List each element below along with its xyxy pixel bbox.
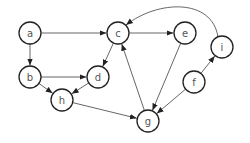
node-e-label: e [182, 28, 188, 39]
edge-f-to-g [157, 89, 186, 113]
node-a-label: a [27, 28, 33, 39]
node-f-label: f [192, 77, 196, 88]
edge-g-to-c [122, 44, 145, 111]
edge-d-to-h [72, 83, 89, 94]
edge-i-to-c [126, 7, 218, 37]
node-f: f [183, 71, 205, 93]
edge-e-to-g [152, 43, 180, 110]
node-a: a [19, 22, 41, 44]
node-i: i [211, 36, 233, 58]
node-h-label: h [59, 95, 65, 106]
directed-graph: abcdefghi [0, 0, 250, 143]
edge-h-to-g [73, 103, 137, 119]
node-g-label: g [145, 116, 151, 127]
node-i-label: i [221, 42, 224, 53]
edge-c-to-d [103, 43, 114, 67]
node-h: h [51, 89, 73, 111]
node-c: c [107, 22, 129, 44]
node-g: g [137, 110, 159, 132]
node-d: d [87, 66, 109, 88]
node-e: e [174, 22, 196, 44]
node-b: b [19, 66, 41, 88]
edge-f-to-i [201, 56, 215, 73]
node-d-label: d [95, 72, 101, 83]
node-c-label: c [115, 28, 121, 39]
edge-b-to-h [39, 83, 53, 93]
node-b-label: b [27, 72, 33, 83]
